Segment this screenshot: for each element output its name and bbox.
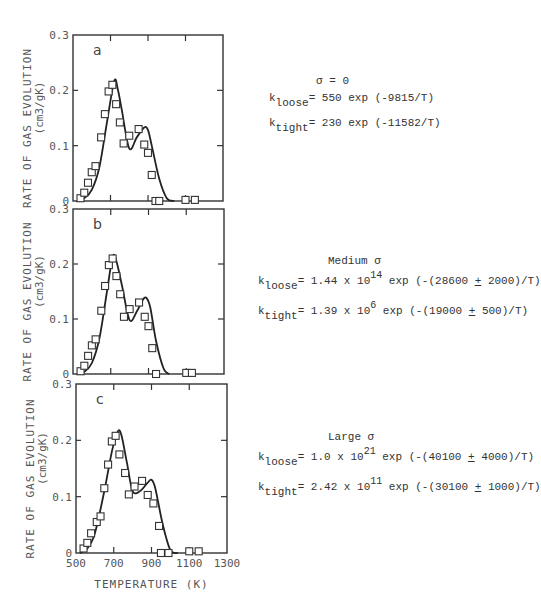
y-tick-label: 0.1 xyxy=(49,140,69,153)
data-point xyxy=(136,299,143,306)
data-point xyxy=(117,291,124,298)
equation-block-a: σ = 0 kloose= 550 exp (-9815/T) ktight= … xyxy=(269,75,441,134)
data-point xyxy=(141,313,148,320)
data-point xyxy=(191,196,198,203)
equation-block-b: Medium σ kloose= 1.44 x 1014 exp (-(2860… xyxy=(258,255,541,322)
data-point xyxy=(120,140,127,147)
data-point xyxy=(81,362,88,369)
data-point xyxy=(131,483,138,490)
panel-letter: c xyxy=(96,391,104,407)
data-point xyxy=(112,432,119,439)
chart-panel-a: 00.10.20.3aRATE OF GAS EVOLUTION(cm3/gK) xyxy=(21,29,223,208)
data-point xyxy=(101,485,108,492)
chart-panel-b: 00.10.20.3bRATE OF GAS EVOLUTION(cm3/gK) xyxy=(21,203,224,382)
data-point xyxy=(92,163,99,170)
data-point xyxy=(98,307,105,314)
data-point xyxy=(101,111,108,118)
data-point xyxy=(150,500,157,507)
x-axis-label: TEMPERATURE (K) xyxy=(94,578,208,591)
data-point xyxy=(113,273,120,280)
y-tick-label: 0.2 xyxy=(49,84,69,97)
data-point xyxy=(92,336,99,343)
data-point xyxy=(105,88,112,95)
data-point xyxy=(141,141,148,148)
data-point xyxy=(81,189,88,196)
data-point xyxy=(195,548,202,555)
data-point xyxy=(153,371,160,378)
k-loose-equation-b: kloose= 1.44 x 1014 exp (-(28600 + 2000)… xyxy=(258,270,541,292)
data-point xyxy=(156,198,163,205)
data-point xyxy=(145,149,152,156)
x-tick-label: 1300 xyxy=(214,557,241,570)
panel-letter: a xyxy=(93,42,102,58)
data-point xyxy=(109,255,116,262)
data-point xyxy=(116,451,123,458)
plot-frame xyxy=(76,384,227,553)
data-point xyxy=(85,179,92,186)
data-point xyxy=(122,470,129,477)
data-point xyxy=(98,134,105,141)
data-point xyxy=(149,345,156,352)
data-point xyxy=(165,550,172,557)
equation-title-a: σ = 0 xyxy=(316,75,441,87)
y-axis-units: (cm3/gK) xyxy=(33,255,46,308)
data-point xyxy=(105,262,112,269)
chart-panel-c: 00.10.20.3cRATE OF GAS EVOLUTION(cm3/gK) xyxy=(24,378,227,560)
k-tight-equation-a: ktight= 230 exp (-11582/T) xyxy=(269,117,441,134)
k-loose-equation-a: kloose= 550 exp (-9815/T) xyxy=(269,92,441,109)
data-point xyxy=(157,550,164,557)
data-point xyxy=(84,539,91,546)
data-point xyxy=(126,132,133,139)
x-tick-label: 1100 xyxy=(176,557,203,570)
y-axis-units: (cm3/gK) xyxy=(36,432,49,485)
x-tick-label: 500 xyxy=(66,557,86,570)
k-tight-equation-c: ktight= 2.42 x 1011 exp (-(30100 + 1000)… xyxy=(258,476,541,498)
y-tick-label: 0.2 xyxy=(49,258,69,271)
data-point xyxy=(120,313,127,320)
data-point xyxy=(182,196,189,203)
data-point xyxy=(148,171,155,178)
data-point xyxy=(116,119,123,126)
data-point xyxy=(97,513,104,520)
y-tick-label: 0.3 xyxy=(49,203,69,216)
data-point xyxy=(125,491,132,498)
x-tick-label: 900 xyxy=(142,557,162,570)
k-loose-equation-c: kloose= 1.0 x 1021 exp (-(40100 + 4000)/… xyxy=(258,446,541,468)
data-point xyxy=(126,306,133,313)
y-tick-label: 0.1 xyxy=(49,313,69,326)
data-point xyxy=(102,283,109,290)
data-point xyxy=(144,491,151,498)
data-point xyxy=(113,101,120,108)
k-tight-equation-b: ktight= 1.39 x 106 exp (-(19000 + 500)/T… xyxy=(258,300,541,322)
data-point xyxy=(105,461,112,468)
panel-letter: b xyxy=(93,216,102,232)
y-tick-label: 0.2 xyxy=(52,434,72,447)
data-point xyxy=(135,126,142,133)
data-point xyxy=(186,548,193,555)
equation-block-c: Large σ kloose= 1.0 x 1021 exp (-(40100 … xyxy=(258,431,541,498)
y-tick-label: 0.3 xyxy=(52,378,72,391)
data-point xyxy=(188,369,195,376)
y-tick-label: 0.3 xyxy=(49,29,69,42)
data-point xyxy=(88,530,95,537)
data-point xyxy=(156,522,163,529)
data-point xyxy=(85,352,92,359)
x-tick-label: 700 xyxy=(104,557,124,570)
data-point xyxy=(109,81,116,88)
y-axis-units: (cm3/gK) xyxy=(33,82,46,135)
y-tick-label: 0.1 xyxy=(52,491,72,504)
equation-title-b: Medium σ xyxy=(328,255,541,267)
data-point xyxy=(145,323,152,330)
equation-title-c: Large σ xyxy=(328,431,541,443)
data-point xyxy=(139,477,146,484)
